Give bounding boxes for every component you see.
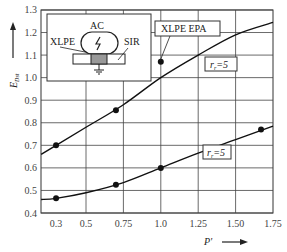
annotation-lower-series: rr=5 xyxy=(203,145,231,159)
y-tick-label: 0.6 xyxy=(25,162,38,173)
chart: 0.40.50.60.70.80.91.01.11.21.3 0.30.50.7… xyxy=(0,0,287,252)
svg-text:SIR: SIR xyxy=(124,36,140,47)
x-axis-label: P' xyxy=(203,236,248,247)
svg-text:EDst: EDst xyxy=(8,73,20,89)
x-tick-label: 1.25 xyxy=(189,218,207,229)
x-tick-label: 1.75 xyxy=(264,218,282,229)
series-line-1 xyxy=(41,126,273,199)
x-tick-label: 0.3 xyxy=(50,218,63,229)
data-point xyxy=(158,165,164,171)
y-tick-label: 0.4 xyxy=(25,208,38,219)
data-point xyxy=(53,195,59,201)
annotation-upper-series: rr=5 xyxy=(205,57,237,71)
arrow-up-icon xyxy=(10,22,16,30)
y-tick-label: 1.2 xyxy=(25,27,38,38)
x-tick-labels: 0.30.50.751.01.251.501.75 xyxy=(50,218,282,229)
y-tick-label: 1.0 xyxy=(25,72,38,83)
arrow-right-icon xyxy=(240,239,248,245)
x-tick-label: 0.5 xyxy=(80,218,93,229)
x-tick-label: 1.50 xyxy=(227,218,245,229)
data-point xyxy=(113,182,119,188)
x-tick-label: 0.75 xyxy=(115,218,133,229)
data-point xyxy=(258,127,264,133)
x-tick-label: 1.0 xyxy=(155,218,168,229)
svg-text:AC: AC xyxy=(90,20,104,31)
svg-text:XLPE: XLPE xyxy=(50,36,75,47)
inset-diagram: AC XLPE SIR xyxy=(47,14,151,81)
y-tick-label: 0.7 xyxy=(25,140,38,151)
y-tick-label: 1.3 xyxy=(25,4,38,15)
y-tick-labels: 0.40.50.60.70.80.91.01.11.21.3 xyxy=(25,4,38,218)
data-point xyxy=(53,142,59,148)
y-tick-label: 0.5 xyxy=(25,185,38,196)
y-tick-label: 0.8 xyxy=(25,117,38,128)
data-point xyxy=(113,107,119,113)
svg-text:XLPE EPA: XLPE EPA xyxy=(161,23,207,34)
y-tick-label: 0.9 xyxy=(25,95,38,106)
y-tick-label: 1.1 xyxy=(25,50,38,61)
svg-text:rr=5: rr=5 xyxy=(210,59,228,71)
svg-text:rr=5: rr=5 xyxy=(207,147,225,159)
y-axis-label: EDst xyxy=(8,22,20,89)
svg-text:P': P' xyxy=(203,236,213,247)
